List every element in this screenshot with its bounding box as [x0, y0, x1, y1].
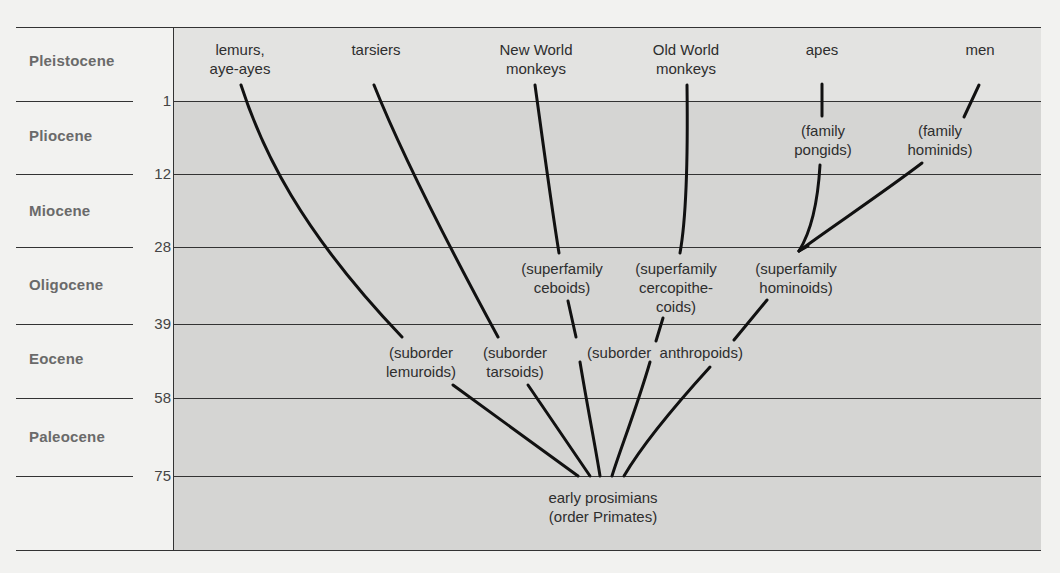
family-hominids: (family hominids) — [907, 121, 972, 159]
suborder-anthropoids: (suborder anthropoids) — [587, 343, 743, 362]
branch-new-world — [535, 85, 559, 253]
branch-hominids — [799, 163, 922, 251]
taxon-tarsiers: tarsiers — [351, 40, 400, 59]
superfamily-ceboids: (superfamily ceboids) — [521, 259, 603, 297]
branch-lemurs — [241, 85, 402, 337]
superfamily-cercopithecoids: (superfamily cercopithe- coids) — [635, 259, 717, 316]
taxon-new-world-monkeys: New World monkeys — [499, 40, 572, 78]
taxon-old-world-monkeys: Old World monkeys — [653, 40, 719, 78]
branch-hominoids — [734, 300, 767, 340]
root-early-prosimians: early prosimians (order Primates) — [548, 488, 657, 526]
branch-ceboids — [568, 301, 576, 337]
branch-men — [964, 85, 979, 117]
suborder-lemuroids: (suborder lemuroids) — [386, 343, 456, 381]
branch-anthropoid-1-root — [580, 362, 600, 476]
branch-old-world — [680, 85, 687, 253]
suborder-tarsoids: (suborder tarsoids) — [483, 343, 547, 381]
superfamily-hominoids: (superfamily hominoids) — [755, 259, 837, 297]
taxon-men: men — [965, 40, 994, 59]
branch-cercopithecoids — [656, 318, 663, 341]
branch-anthropoid-2-root — [612, 362, 650, 476]
branch-anthropoid-3-root — [624, 367, 710, 476]
taxon-lemurs: lemurs, aye-ayes — [210, 40, 271, 78]
taxon-apes: apes — [806, 40, 839, 59]
family-pongids: (family pongids) — [794, 121, 852, 159]
branch-tarsiers — [374, 85, 498, 337]
